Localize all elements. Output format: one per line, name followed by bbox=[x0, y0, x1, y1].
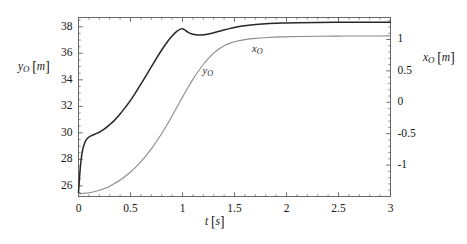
x-tick-label-3: 3 bbox=[388, 203, 394, 215]
y-axis-title: yO [m] bbox=[18, 60, 50, 74]
x-tick-label-2: 2 bbox=[284, 203, 290, 215]
x-tick-label-0: 0 bbox=[76, 203, 82, 215]
x-tick-label-0.5: 0.5 bbox=[123, 203, 137, 215]
x-tick-label-1: 1 bbox=[180, 203, 186, 215]
y2-tick-label-0: 0 bbox=[398, 96, 404, 108]
series-line-1 bbox=[79, 22, 391, 192]
y2-tick-label-0p5: 0.5 bbox=[398, 65, 412, 77]
y-tick-label-26: 26 bbox=[61, 180, 73, 192]
y2-axis-title: xO [m] bbox=[423, 51, 455, 65]
y2-tick-label--1: -1 bbox=[398, 159, 408, 171]
y-tick-label-38: 38 bbox=[61, 21, 73, 33]
figure-canvas: yO [m] xO [m] t [s] 00.511.522.532628303… bbox=[0, 0, 467, 244]
curve-label-xO: xO bbox=[252, 44, 263, 56]
y-tick-label-34: 34 bbox=[61, 74, 73, 86]
x-tick-label-2.5: 2.5 bbox=[331, 203, 345, 215]
curve-label-yO: yO bbox=[203, 66, 214, 78]
y2-tick-label--0p5: -0.5 bbox=[398, 128, 416, 140]
y-tick-label-32: 32 bbox=[61, 100, 73, 112]
y-tick-label-36: 36 bbox=[61, 47, 73, 59]
series-line-2 bbox=[79, 36, 391, 194]
x-tick-label-1.5: 1.5 bbox=[227, 203, 241, 215]
y-tick-label-30: 30 bbox=[61, 127, 73, 139]
x-axis-title: t [s] bbox=[205, 215, 224, 229]
y-tick-label-28: 28 bbox=[61, 153, 73, 165]
y2-tick-label-1: 1 bbox=[398, 33, 404, 45]
series-curves bbox=[79, 22, 391, 194]
